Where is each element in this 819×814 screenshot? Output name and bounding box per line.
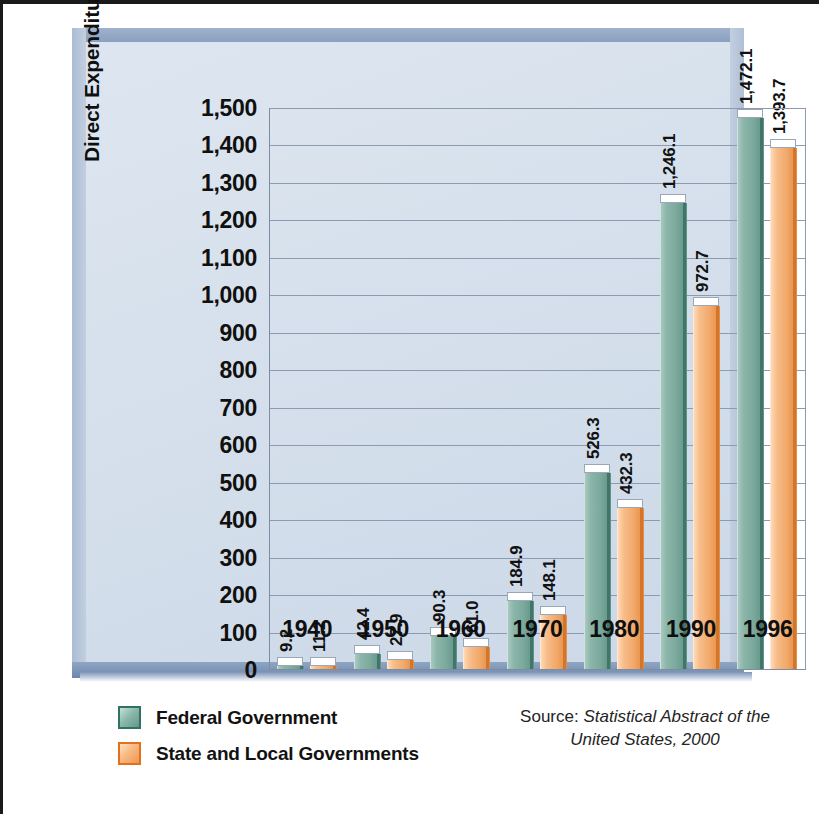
gridline [269, 220, 806, 221]
x-axis-tick-label: 1996 [729, 616, 806, 643]
bar-1950-state-local[interactable] [387, 660, 413, 670]
gridline [269, 408, 806, 409]
x-axis-tick-label: 1980 [576, 616, 653, 643]
source-attribution: Source: Statistical Abstract of the Unit… [495, 706, 795, 752]
gridline [269, 520, 806, 521]
bar-top-cap [660, 194, 686, 203]
bar-1950-federal[interactable] [354, 654, 380, 670]
plot-area: 9.211.242.427.990.361.0184.9148.1526.343… [269, 108, 806, 670]
bar-top-cap [584, 464, 610, 473]
bar-top-cap [770, 139, 796, 148]
y-axis-tick-label: 900 [220, 319, 257, 346]
frame-bevel-top [72, 28, 744, 42]
frame-drop-shadow [80, 672, 752, 682]
x-axis-tick-label: 1940 [269, 616, 346, 643]
y-axis-tick-label: 600 [220, 432, 257, 459]
x-axis-tick-label: 1990 [653, 616, 730, 643]
x-axis-tick-label: 1950 [346, 616, 423, 643]
bar-right-edge [377, 654, 380, 670]
bar-right-edge [683, 203, 686, 670]
y-axis-tick-label: 500 [220, 469, 257, 496]
source-title-line2: United States, 2000 [570, 730, 719, 749]
x-axis-tick-label: 1960 [422, 616, 499, 643]
bar-right-edge [793, 148, 796, 670]
legend-item-state-local[interactable]: State and Local Governments [118, 742, 419, 765]
gridline [269, 558, 806, 559]
bar-1940-state-local[interactable] [310, 666, 336, 670]
legend-label-federal: Federal Government [156, 707, 337, 729]
gridline [269, 145, 806, 146]
bar-value-label: 1,246.1 [660, 134, 680, 189]
bar-value-label: 184.9 [507, 545, 527, 587]
bar-value-label: 972.7 [693, 250, 713, 292]
y-axis-tick-label: 0 [245, 657, 258, 684]
source-prefix: Source: [520, 707, 579, 726]
y-axis-tick-label: 300 [220, 544, 257, 571]
bar-1990-federal[interactable] [660, 203, 686, 670]
gridline [269, 483, 806, 484]
gridline [269, 595, 806, 596]
bar-top-cap [507, 592, 533, 601]
bar-right-edge [300, 666, 303, 670]
page-top-rule [0, 0, 819, 4]
gridline [269, 258, 806, 259]
gridline [269, 370, 806, 371]
x-axis-tick-label: 1970 [499, 616, 576, 643]
bar-right-edge [486, 647, 489, 670]
y-axis-tick-label: 400 [220, 507, 257, 534]
bar-1980-state-local[interactable] [617, 508, 643, 670]
bar-top-cap [310, 657, 336, 666]
page-left-rule [0, 0, 3, 814]
legend-label-state-local: State and Local Governments [156, 743, 419, 765]
bar-top-cap [354, 645, 380, 654]
legend-swatch-state-local-icon [118, 742, 141, 765]
y-axis-tick-label: 1,300 [201, 169, 257, 196]
bar-value-label: 1,393.7 [770, 79, 790, 134]
chart-canvas: Direct Expenditures (in billions of doll… [86, 42, 730, 662]
bar-right-edge [760, 118, 763, 670]
y-axis-tick-label: 700 [220, 394, 257, 421]
plot-border [269, 108, 806, 670]
legend-swatch-federal-icon [118, 706, 141, 729]
bar-value-label: 1,472.1 [737, 49, 757, 104]
y-axis-tick-label: 1,200 [201, 207, 257, 234]
gridline [269, 333, 806, 334]
bar-value-label: 526.3 [584, 417, 604, 459]
gridline [269, 295, 806, 296]
chart-legend: Federal Government State and Local Gover… [118, 706, 419, 778]
y-axis-tick-label: 1,400 [201, 132, 257, 159]
bar-1960-state-local[interactable] [463, 647, 489, 670]
y-axis-tick-label: 1,500 [201, 95, 257, 122]
y-axis-tick-label: 100 [220, 619, 257, 646]
bar-right-edge [333, 666, 336, 670]
bar-top-cap [693, 297, 719, 306]
y-axis-title: Direct Expenditures (in billions of doll… [80, 0, 104, 162]
bar-top-cap [540, 606, 566, 615]
bar-top-cap [617, 499, 643, 508]
source-title-line1: Statistical Abstract of the [583, 707, 769, 726]
bar-1940-federal[interactable] [277, 666, 303, 670]
y-axis-tick-label: 800 [220, 357, 257, 384]
y-axis-tick-label: 1,100 [201, 244, 257, 271]
y-axis-tick-label: 200 [220, 582, 257, 609]
bar-top-cap [277, 657, 303, 666]
bar-value-label: 148.1 [540, 559, 560, 601]
bar-top-cap [387, 651, 413, 660]
bar-1996-state-local[interactable] [770, 148, 796, 670]
bar-right-edge [640, 508, 643, 670]
gridline [269, 183, 806, 184]
bar-top-cap [737, 109, 763, 118]
gridline [269, 445, 806, 446]
legend-item-federal[interactable]: Federal Government [118, 706, 419, 729]
bar-1996-federal[interactable] [737, 118, 763, 670]
bar-value-label: 432.3 [617, 453, 637, 495]
y-axis-tick-label: 1,000 [201, 282, 257, 309]
bar-right-edge [410, 660, 413, 670]
